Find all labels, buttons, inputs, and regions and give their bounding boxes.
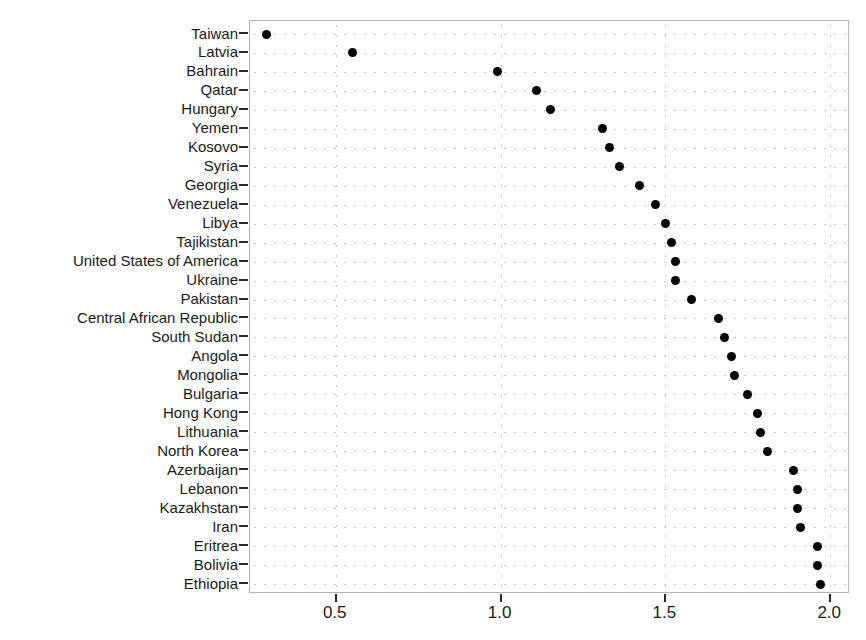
y-axis-tick-label: Kazakhstan [0, 498, 238, 517]
gridline-horizontal [250, 167, 849, 168]
y-axis-tick-label: Eritrea [0, 536, 238, 555]
data-point [756, 428, 765, 437]
gridline-horizontal [250, 375, 849, 376]
y-axis-tick-mark [239, 430, 248, 432]
y-axis-tick-mark [239, 32, 248, 34]
data-point [546, 105, 555, 114]
x-axis-tick-label: 1.0 [460, 603, 540, 623]
scatter-chart-figure: TaiwanLatviaBahrainQatarHungaryYemenKoso… [0, 0, 866, 640]
y-axis-tick-label: Bolivia [0, 555, 238, 574]
gridline-horizontal [250, 356, 849, 357]
x-axis-tick-label: 2.0 [789, 603, 866, 623]
y-axis-tick-label: Libya [0, 213, 238, 232]
y-axis-tick-label: Bahrain [0, 61, 238, 80]
data-point [796, 523, 805, 532]
y-axis-tick-label: Georgia [0, 175, 238, 194]
y-axis-tick-mark [239, 316, 248, 318]
data-point [714, 314, 723, 323]
data-point [651, 200, 660, 209]
gridline-horizontal [250, 300, 849, 301]
data-point [763, 447, 772, 456]
gridline-horizontal [250, 394, 849, 395]
data-point [813, 561, 822, 570]
y-axis-tick-label: Central African Republic [0, 308, 238, 327]
gridline-vertical [501, 21, 502, 593]
data-point [687, 295, 696, 304]
gridline-horizontal [250, 546, 849, 547]
data-point [727, 352, 736, 361]
y-axis-tick-mark [239, 279, 248, 281]
x-axis-tick-mark [664, 594, 666, 602]
y-axis-tick-label: Tajikistan [0, 232, 238, 251]
y-axis-tick-mark [239, 335, 248, 337]
y-axis-tick-label: Qatar [0, 80, 238, 99]
data-point [789, 466, 798, 475]
y-axis-tick-label: Syria [0, 156, 238, 175]
gridline-vertical [336, 21, 337, 593]
y-axis-label-column: TaiwanLatviaBahrainQatarHungaryYemenKoso… [0, 0, 238, 640]
gridline-horizontal [250, 318, 849, 319]
data-point [743, 390, 752, 399]
y-axis-tick-mark [239, 392, 248, 394]
gridline-horizontal [250, 129, 849, 130]
data-point [348, 48, 357, 57]
gridline-vertical [665, 21, 666, 593]
y-axis-tick-mark [239, 544, 248, 546]
gridline-horizontal [250, 508, 849, 509]
data-point [262, 30, 271, 39]
gridline-horizontal [250, 565, 849, 566]
gridline-horizontal [250, 337, 849, 338]
x-axis-tick-label: 1.5 [624, 603, 704, 623]
y-axis-tick-label: Ethiopia [0, 574, 238, 593]
gridline-horizontal [250, 91, 849, 92]
data-point [730, 371, 739, 380]
y-axis-tick-mark [239, 70, 248, 72]
y-axis-tick-label: Iran [0, 517, 238, 536]
y-axis-tick-mark [239, 468, 248, 470]
gridline-horizontal [250, 186, 849, 187]
y-axis-tick-mark [239, 298, 248, 300]
data-point [816, 580, 825, 589]
data-point [598, 124, 607, 133]
gridline-horizontal [250, 205, 849, 206]
y-axis-tick-mark [239, 108, 248, 110]
y-axis-tick-mark [239, 582, 248, 584]
gridline-horizontal [250, 527, 849, 528]
y-axis-tick-mark [239, 51, 248, 53]
data-point [532, 86, 541, 95]
gridline-vertical [830, 21, 831, 593]
y-axis-tick-mark [239, 241, 248, 243]
y-axis-tick-label: Mongolia [0, 365, 238, 384]
gridline-horizontal [250, 34, 849, 35]
y-axis-tick-label: Lebanon [0, 479, 238, 498]
data-point [671, 276, 680, 285]
data-point [605, 143, 614, 152]
y-axis-tick-label: Hungary [0, 99, 238, 118]
gridline-horizontal [250, 262, 849, 263]
gridline-horizontal [250, 148, 849, 149]
y-axis-tick-label: Bulgaria [0, 384, 238, 403]
gridline-horizontal [250, 470, 849, 471]
gridline-horizontal [250, 243, 849, 244]
y-axis-tick-mark [239, 411, 248, 413]
x-axis-tick-mark [500, 594, 502, 602]
y-axis-tick-label: North Korea [0, 441, 238, 460]
y-axis-tick-label: Azerbaijan [0, 460, 238, 479]
y-axis-tick-mark [239, 146, 248, 148]
data-point [753, 409, 762, 418]
gridline-horizontal [250, 281, 849, 282]
x-axis-tick-label: 0.5 [295, 603, 375, 623]
y-axis-tick-label: Yemen [0, 118, 238, 137]
y-axis-tick-mark [239, 203, 248, 205]
y-axis-tick-mark [239, 222, 248, 224]
y-axis-tick-mark [239, 525, 248, 527]
data-point [667, 238, 676, 247]
y-axis-tick-label: Ukraine [0, 270, 238, 289]
y-axis-tick-label: Angola [0, 346, 238, 365]
gridline-horizontal [250, 451, 849, 452]
gridline-horizontal [250, 53, 849, 54]
y-axis-tick-mark [239, 165, 248, 167]
y-axis-tick-mark [239, 487, 248, 489]
gridline-horizontal [250, 72, 849, 73]
y-axis-tick-label: Kosovo [0, 137, 238, 156]
